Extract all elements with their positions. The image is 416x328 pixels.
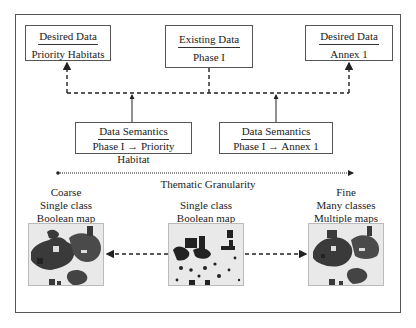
- box-title: Desired Data: [319, 30, 379, 45]
- fine-map-label: Fine Many classes Multiple maps: [300, 186, 392, 225]
- box-title: Data Semantics: [98, 125, 169, 140]
- label-line: Single class: [20, 199, 112, 212]
- data-semantics-priority-habitat-box: Data Semantics Phase I → Priority Habita…: [75, 122, 192, 154]
- desired-data-priority-habitats-box: Desired Data Priority Habitats: [25, 25, 111, 61]
- boolean-habitat-map: [168, 223, 244, 286]
- fine-habitat-map: [308, 223, 384, 286]
- box-subtitle: Annex 1: [306, 48, 392, 61]
- data-semantics-annex-1-box: Data Semantics Phase I → Annex 1: [219, 122, 333, 154]
- box-subtitle: Phase I → Annex 1: [220, 140, 332, 153]
- label-line: Coarse: [20, 186, 112, 199]
- box-subtitle: Phase I → Priority Habitat: [76, 140, 191, 166]
- box-subtitle: Priority Habitats: [26, 48, 110, 61]
- boolean-map-label: Single class Boolean map: [160, 199, 252, 225]
- box-title: Desired Data: [38, 30, 98, 45]
- thematic-granularity-label: Thematic Granularity: [150, 178, 266, 191]
- label-line: Fine: [300, 186, 392, 199]
- box-title: Existing Data: [178, 33, 240, 48]
- existing-data-phase-i-box: Existing Data Phase I: [165, 25, 253, 68]
- label-line: Many classes: [300, 199, 392, 212]
- box-subtitle: Phase I: [166, 51, 252, 64]
- label-line: Single class: [160, 199, 252, 212]
- desired-data-annex-1-box: Desired Data Annex 1: [305, 25, 393, 61]
- coarse-habitat-map: [28, 223, 104, 286]
- coarse-map-label: Coarse Single class Boolean map: [20, 186, 112, 225]
- box-title: Data Semantics: [241, 125, 312, 140]
